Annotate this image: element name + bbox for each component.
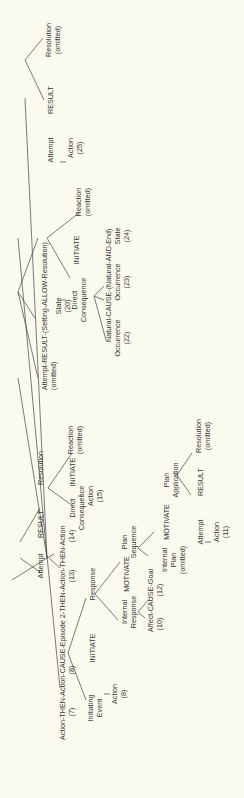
- resolution-node: Resolution(omitted): [194, 419, 212, 453]
- plan-sequence-node: PlanSequence: [120, 526, 138, 558]
- result-node: RESULT: [36, 510, 45, 538]
- affect-cause-goal-node: Affect-CAUSE-Goal: [146, 569, 155, 632]
- attempt-node: Attempt: [196, 520, 205, 545]
- initiate-link: INITIATE: [68, 457, 77, 486]
- reaction-node: Reaction(omitted): [66, 426, 84, 454]
- node-number: (13): [67, 570, 76, 583]
- internal-response-node: InternalResponse: [120, 596, 138, 628]
- direct-consequence-node: DirectConsequence: [70, 278, 88, 322]
- attempt-node: Attempt: [46, 138, 55, 163]
- reaction-node: Reaction(omitted): [74, 188, 92, 216]
- occurrence-node: Occurrence(23): [113, 263, 131, 300]
- attempt-node: Attempt: [36, 554, 45, 579]
- plan-application-node: PlanApplication: [162, 462, 180, 497]
- initiating-event-node: InitiatingEvent: [86, 695, 104, 722]
- direct-consequence-node: DirectConsequence: [68, 486, 86, 530]
- story-grammar-diagram: Action-THEN-Action-CAUSE-Episode 2-THEN-…: [0, 0, 244, 798]
- action-node: Action(25): [66, 138, 84, 158]
- node-number: (14): [67, 530, 76, 543]
- motivate-link: MOTIVATE: [122, 556, 131, 592]
- resolution-node: Resolution: [36, 451, 45, 485]
- node-number: (8): [67, 666, 76, 675]
- attempt-result-setting-node: Attempt-RESULT-(Setting-ALLOW-Resolution…: [40, 242, 58, 390]
- action-node: Action(8): [110, 684, 128, 704]
- occurrence-node: Occurrence(22): [113, 319, 131, 356]
- initiate-link: INITIATE: [88, 633, 97, 662]
- episode-root-label: Action-THEN-Action-CAUSE-Episode 2-THEN-…: [58, 526, 67, 740]
- action-node: Action(15): [86, 486, 104, 506]
- node-number: (12): [155, 584, 164, 597]
- result-node: RESULT: [46, 86, 55, 114]
- action-node: Action(11): [212, 522, 230, 542]
- internal-plan-node: InternalPlan(omitted): [160, 546, 187, 574]
- node-number: (7): [67, 708, 76, 717]
- response-node: Response: [88, 568, 97, 600]
- resolution-node: Resolution(omitted): [44, 23, 62, 57]
- state-node: State(24): [113, 228, 131, 245]
- tree-connectors: [0, 0, 244, 798]
- result-node: RESULT: [196, 468, 205, 496]
- node-number: (10): [155, 618, 164, 631]
- motivate-link: MOTIVATE: [162, 504, 171, 540]
- initiate-link: INITIATE: [72, 235, 81, 264]
- natural-cause-node: Natural-CAUSE-(Natural-AND-End): [104, 229, 113, 342]
